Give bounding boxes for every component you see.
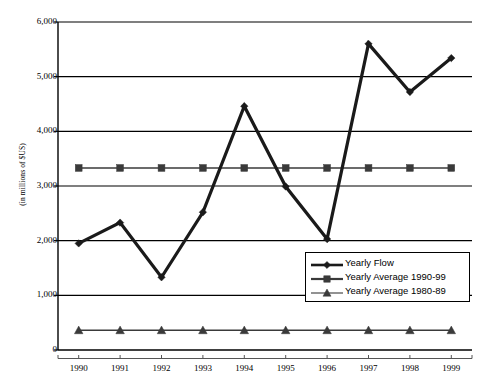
legend-item-1[interactable]: Yearly Flow (308, 256, 467, 270)
legend-label: Yearly Average 1990-99 (344, 272, 446, 282)
legend-marker-diamond-icon (310, 257, 344, 269)
chart-legend: Yearly FlowYearly Average 1990-99Yearly … (305, 252, 470, 302)
legend-marker-square-icon (310, 271, 344, 283)
x-axis-tick-label: 1999 (426, 364, 476, 373)
data-point-marker (324, 276, 330, 282)
legend-label: Yearly Average 1980-89 (344, 286, 446, 296)
legend-item-3[interactable]: Yearly Average 1980-89 (308, 284, 467, 298)
line-chart: (in millions of $US) 6,0005,0004,0003,00… (0, 0, 481, 391)
legend-item-2[interactable]: Yearly Average 1990-99 (308, 270, 467, 284)
legend-label: Yearly Flow (344, 258, 394, 268)
data-point-marker (323, 261, 330, 268)
x-axis-tick-labels: 1990199119921993199419951996199719981999 (0, 0, 481, 391)
legend-marker-triangle-icon (310, 285, 344, 297)
